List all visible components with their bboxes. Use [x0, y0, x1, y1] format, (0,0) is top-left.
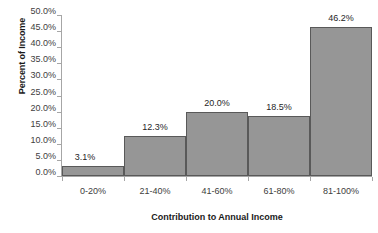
histogram-chart: Percent of Income 50.0%45.0%40.0%35.0%30…: [0, 0, 378, 233]
bar-data-label: 12.3%: [124, 123, 186, 132]
bar: [248, 116, 310, 176]
y-axis-tick-mark: [57, 176, 61, 177]
x-axis-tick-label: 61-80%: [248, 186, 310, 197]
y-axis-tick-label: 10.0%: [18, 136, 56, 145]
y-axis-tick-label: 35.0%: [18, 55, 56, 64]
y-axis-tick-mark: [57, 31, 61, 32]
y-axis-tick-mark: [57, 128, 61, 129]
y-axis-tick-labels: 50.0%45.0%40.0%35.0%30.0%25.0%20.0%15.0%…: [18, 11, 56, 176]
x-axis-tick-mark: [248, 177, 249, 181]
x-axis-line: [61, 176, 372, 177]
y-axis-tick-mark: [57, 96, 61, 97]
y-axis-tick-label: 40.0%: [18, 39, 56, 48]
bar: [62, 166, 124, 176]
y-axis-tick-mark: [57, 63, 61, 64]
bar-data-label: 3.1%: [54, 153, 116, 162]
y-axis-tick-label: 45.0%: [18, 23, 56, 32]
y-axis-tick-mark: [57, 47, 61, 48]
x-axis-tick-mark: [186, 177, 187, 181]
y-axis-tick-mark: [57, 144, 61, 145]
y-axis-tick-label: 30.0%: [18, 71, 56, 80]
y-axis-tick-mark: [57, 15, 61, 16]
x-axis-tick-mark: [372, 177, 373, 181]
y-axis-tick-label: 15.0%: [18, 120, 56, 129]
x-axis-tick-mark: [310, 177, 311, 181]
x-axis-tick-label: 41-60%: [186, 186, 248, 197]
x-axis-tick-label: 0-20%: [62, 186, 124, 197]
x-axis-tick-mark: [124, 177, 125, 181]
y-axis-tick-label: 20.0%: [18, 104, 56, 113]
bar-data-label: 18.5%: [248, 103, 310, 112]
bar-data-label: 46.2%: [310, 14, 372, 23]
y-axis-tick-label: 50.0%: [18, 7, 56, 16]
x-axis-tick-label: 21-40%: [124, 186, 186, 197]
y-axis-tick-label: 25.0%: [18, 88, 56, 97]
x-axis-tick-mark: [62, 177, 63, 181]
bar: [310, 27, 372, 176]
x-axis-title: Contribution to Annual Income: [62, 212, 372, 222]
bar: [186, 112, 248, 176]
y-axis-tick-mark: [57, 79, 61, 80]
y-axis-tick-mark: [57, 112, 61, 113]
y-axis-tick-label: 0.0%: [18, 168, 56, 177]
x-axis-tick-labels: 0-20%21-40%41-60%61-80%81-100%: [62, 186, 372, 198]
bar: [124, 136, 186, 176]
y-axis-tick-label: 5.0%: [18, 152, 56, 161]
x-axis-tick-label: 81-100%: [310, 186, 372, 197]
plot-area: 3.1%12.3%20.0%18.5%46.2%: [62, 15, 372, 176]
bar-data-label: 20.0%: [186, 99, 248, 108]
